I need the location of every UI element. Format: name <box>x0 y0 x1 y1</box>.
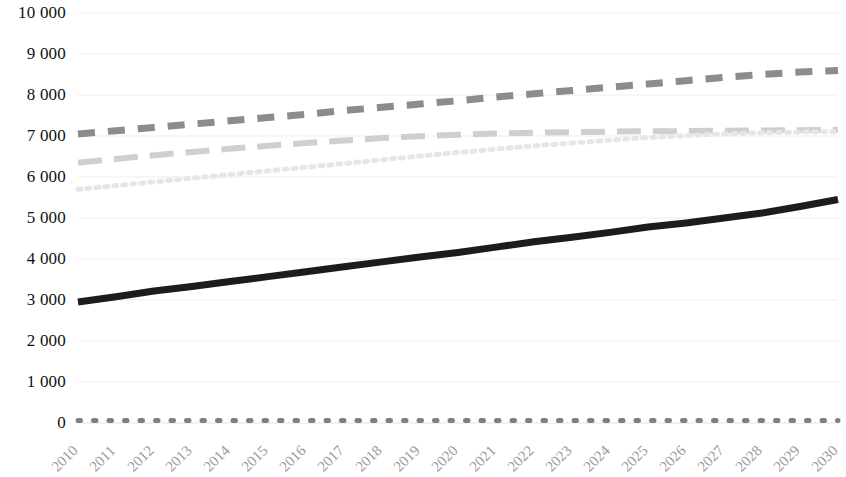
x-axis-tick-label: 2019 <box>390 442 423 475</box>
x-axis-tick-label: 2020 <box>428 442 461 475</box>
x-axis-tick-label: 2014 <box>200 442 233 475</box>
x-axis-tick-label: 2030 <box>808 442 841 475</box>
x-axis-tick-label: 2010 <box>48 442 81 475</box>
y-axis-tick-label: 0 <box>57 413 66 433</box>
x-axis-tick-label: 2028 <box>732 442 765 475</box>
series-line <box>78 70 838 134</box>
plot-svg <box>78 13 838 423</box>
x-axis-tick-label: 2013 <box>162 442 195 475</box>
y-axis-labels: 10 0009 0008 0007 0006 0005 0004 0003 00… <box>0 0 72 440</box>
x-axis-tick-label: 2015 <box>238 442 271 475</box>
x-axis-tick-label: 2021 <box>466 442 499 475</box>
x-axis-tick-label: 2027 <box>694 442 727 475</box>
x-axis-tick-label: 2026 <box>656 442 689 475</box>
series-line <box>78 200 838 302</box>
x-axis-labels: 2010201120122013201420152016201720182019… <box>78 424 838 477</box>
x-axis-tick-label: 2016 <box>276 442 309 475</box>
x-axis-tick-label: 2012 <box>124 442 157 475</box>
series-line <box>78 132 838 190</box>
y-axis-tick-label: 2 000 <box>27 331 66 351</box>
y-axis-tick-label: 7 000 <box>27 126 66 146</box>
y-axis-tick-label: 4 000 <box>27 249 66 269</box>
y-axis-tick-label: 10 000 <box>18 3 66 23</box>
y-axis-tick-label: 1 000 <box>27 372 66 392</box>
x-axis-tick-label: 2024 <box>580 442 613 475</box>
x-axis-tick-label: 2029 <box>770 442 803 475</box>
x-axis-tick-label: 2023 <box>542 442 575 475</box>
plot-area <box>78 13 838 423</box>
y-axis-tick-label: 6 000 <box>27 167 66 187</box>
y-axis-tick-label: 3 000 <box>27 290 66 310</box>
x-axis-tick-label: 2011 <box>86 443 119 476</box>
series-lines <box>78 70 838 420</box>
x-axis-tick-label: 2017 <box>314 442 347 475</box>
x-axis-tick-label: 2022 <box>504 442 537 475</box>
y-axis-tick-label: 9 000 <box>27 44 66 64</box>
x-axis-tick-label: 2018 <box>352 442 385 475</box>
y-axis-tick-label: 8 000 <box>27 85 66 105</box>
x-axis-tick-label: 2025 <box>618 442 651 475</box>
y-axis-tick-label: 5 000 <box>27 208 66 228</box>
line-chart: 10 0009 0008 0007 0006 0005 0004 0003 00… <box>0 0 846 477</box>
